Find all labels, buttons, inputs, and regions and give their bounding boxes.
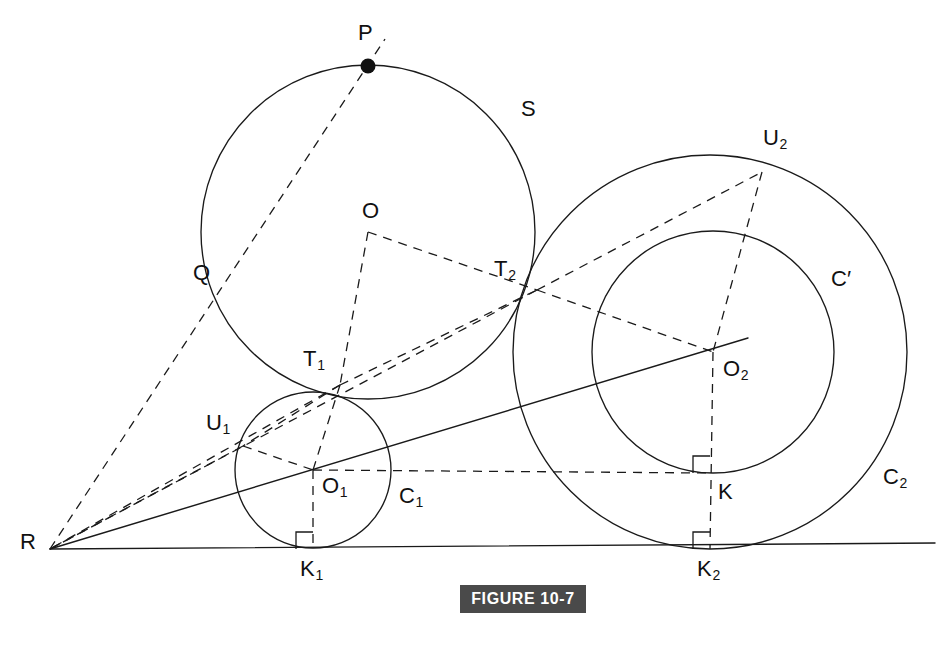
label-U2-main: U [763, 125, 779, 150]
label-K2: K2 [697, 558, 720, 580]
label-T2-sub: 2 [508, 267, 516, 283]
point-marker-P [361, 59, 376, 74]
label-U1-main: U [206, 410, 222, 435]
label-K1: K1 [300, 558, 323, 580]
label-R: R [20, 531, 36, 553]
label-O2-main: O [723, 356, 740, 381]
label-C1-main: C [399, 483, 415, 508]
label-U2: U2 [763, 127, 787, 149]
label-C2-main: C [883, 464, 899, 489]
label-U1: U1 [206, 412, 230, 434]
label-O1-main: O [322, 473, 339, 498]
secant-line-R-O2 [50, 338, 748, 549]
geometry-diagram [0, 0, 948, 652]
label-S: S [521, 98, 536, 120]
dashed-line-O-T1 [340, 232, 368, 385]
dashed-line-T2-U2 [537, 172, 762, 290]
label-C2: C2 [883, 466, 907, 488]
label-C2-sub: 2 [900, 475, 908, 491]
label-O1-sub: 1 [340, 484, 348, 500]
dashed-line-T1-T2 [340, 290, 537, 385]
label-O2: O2 [723, 358, 748, 380]
label-K: K [718, 481, 733, 503]
label-O2-sub: 2 [741, 367, 749, 383]
label-Q: Q [193, 262, 210, 284]
circle-C2 [513, 155, 907, 549]
figure-caption-text: FIGURE 10-7 [471, 591, 575, 607]
right-angle-mark-K [693, 456, 710, 473]
label-U2-sub: 2 [780, 136, 788, 152]
right-angle-marks-group [296, 456, 710, 549]
label-P: P [358, 22, 373, 44]
dashed-line-U1-O1 [243, 446, 313, 470]
figure-10-7-illustration: P S O Q T2 T1 U1 O1 C1 R K1 U2 C′ O2 K C… [0, 0, 948, 652]
label-C-prime: C′ [831, 268, 851, 290]
figure-caption-box: FIGURE 10-7 [460, 585, 586, 613]
label-T2: T2 [494, 258, 516, 280]
label-C1: C1 [399, 485, 423, 507]
dashed-line-T2-O2 [537, 290, 713, 352]
label-K2-sub: 2 [712, 567, 720, 583]
tangent-baseline-line [50, 543, 935, 549]
label-C1-sub: 1 [416, 494, 424, 510]
dashed-line-U2-O2 [713, 172, 762, 352]
label-O: O [362, 200, 379, 222]
label-T2-main: T [494, 256, 508, 281]
label-T1-main: T [303, 346, 317, 371]
right-angle-mark-K2 [693, 532, 710, 549]
label-U1-sub: 1 [223, 421, 231, 437]
dashed-line-O2-K2 [710, 352, 713, 549]
label-K1-sub: 1 [315, 567, 323, 583]
label-K2-main: K [697, 556, 712, 581]
dashed-line-O1-K [313, 470, 710, 473]
label-T1: T1 [303, 348, 325, 370]
dashed-line-T1-R [50, 385, 340, 549]
solid-lines-group [50, 338, 935, 549]
circles-group [201, 65, 907, 549]
dashed-line-T1-O1 [313, 385, 340, 470]
label-K1-main: K [300, 556, 315, 581]
label-T1-sub: 1 [317, 357, 325, 373]
dashed-lines-group [50, 39, 762, 549]
label-O1: O1 [322, 475, 347, 497]
